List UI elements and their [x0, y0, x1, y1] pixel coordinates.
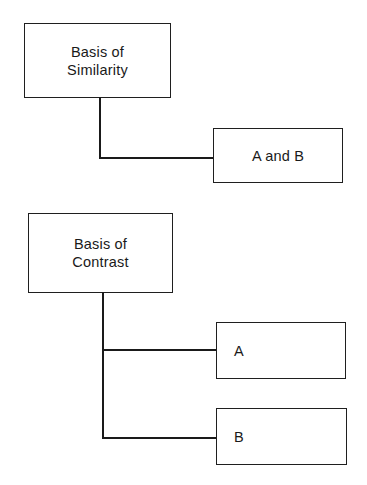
basis-of-similarity-label: Basis of Similarity — [67, 43, 128, 79]
a-label: A — [234, 342, 244, 360]
a-box: A — [216, 322, 346, 379]
contrast-connector-branch-a — [102, 349, 217, 351]
basis-of-contrast-box: Basis of Contrast — [28, 213, 173, 293]
contrast-connector-branch-b — [102, 437, 217, 439]
contrast-connector-vertical — [102, 292, 104, 439]
basis-of-similarity-box: Basis of Similarity — [24, 23, 171, 98]
b-box: B — [216, 408, 347, 465]
similarity-connector-vertical — [99, 97, 101, 159]
similarity-connector-horizontal — [99, 157, 214, 159]
b-label: B — [234, 428, 244, 446]
a-and-b-box: A and B — [213, 128, 343, 183]
basis-of-contrast-label: Basis of Contrast — [72, 235, 128, 271]
a-and-b-label: A and B — [252, 147, 304, 165]
